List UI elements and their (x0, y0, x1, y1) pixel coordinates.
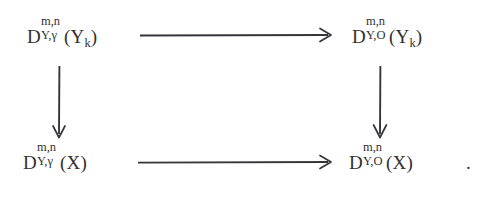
node-top-left-argument: (Y (64, 26, 84, 47)
node-bottom-right-subscript: Y,O (363, 155, 383, 168)
node-top-left-symbol: D (27, 26, 41, 47)
node-bottom-right-scripts: m,n Y,O (363, 150, 385, 169)
node-bottom-left-argument-close: ) (80, 152, 87, 173)
node-bottom-right: D m,n Y,O (X) (349, 150, 413, 176)
node-bottom-left-subscript: Y,γ (37, 155, 53, 168)
node-top-left-scripts: m,n Y,γ (41, 24, 63, 43)
node-top-left-subscript: Y,γ (41, 29, 57, 42)
node-bottom-right-argument: (X (386, 152, 406, 173)
node-bottom-left-argument: (X (60, 152, 80, 173)
node-bottom-right-symbol: D (349, 152, 363, 173)
arrow-top-horizontal (140, 25, 336, 45)
node-bottom-left-symbol: D (23, 152, 37, 173)
diagram-canvas: D m,n Y,γ (Yk) D m,n Y,O (Yk) D m,n Y,γ … (0, 0, 495, 199)
node-top-left-superscript: m,n (41, 15, 60, 28)
node-top-right-scripts: m,n Y,O (366, 24, 388, 43)
arrow-bottom-horizontal (138, 152, 338, 172)
node-top-right-subscript: Y,O (366, 29, 386, 42)
node-top-right-argument-close: ) (416, 26, 423, 47)
node-top-right-argument: (Y (389, 26, 409, 47)
node-bottom-right-superscript: m,n (363, 141, 382, 154)
arrow-left-vertical (50, 66, 70, 142)
node-top-right-superscript: m,n (366, 15, 385, 28)
node-top-right: D m,n Y,O (Yk) (352, 24, 422, 50)
node-bottom-left: D m,n Y,γ (X) (23, 150, 87, 176)
arrow-right-vertical (371, 66, 391, 142)
node-bottom-right-argument-close: ) (406, 152, 413, 173)
trailing-period: . (466, 152, 471, 174)
node-top-left-argument-close: ) (91, 26, 98, 47)
node-bottom-left-superscript: m,n (37, 141, 56, 154)
node-bottom-left-scripts: m,n Y,γ (37, 150, 59, 169)
node-top-left: D m,n Y,γ (Yk) (27, 24, 97, 50)
node-top-right-symbol: D (352, 26, 366, 47)
